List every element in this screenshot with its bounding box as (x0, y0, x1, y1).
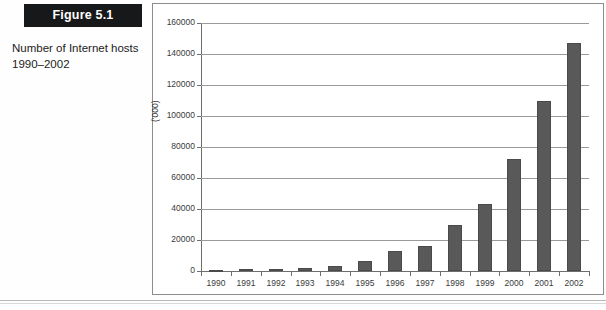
x-tick-mark (201, 272, 202, 276)
x-tick-label: 2000 (499, 278, 529, 288)
bar (328, 266, 342, 271)
bar (418, 246, 432, 271)
y-axis-title: ('000) (150, 101, 160, 122)
page-bottom-rule (0, 300, 606, 301)
y-tick-label: 60000 (171, 173, 195, 182)
x-tick-label: 1994 (320, 278, 350, 288)
x-axis-line (201, 271, 590, 272)
gridline (201, 116, 589, 117)
figure-caption-block: Figure 5.1 Number of Internet hosts 1990… (10, 4, 146, 72)
x-tick-mark (440, 272, 441, 276)
y-tick-label: 80000 (171, 142, 195, 151)
bar (478, 204, 492, 271)
x-tick-label: 1999 (470, 278, 500, 288)
gridline (201, 209, 589, 210)
x-tick-mark (410, 272, 411, 276)
x-tick-label: 1996 (380, 278, 410, 288)
y-tick-label: 0 (190, 266, 195, 275)
chart-frame: ('000) 020000400006000080000100000120000… (152, 3, 604, 295)
x-tick-label: 1992 (261, 278, 291, 288)
y-tick-label: 120000 (167, 80, 195, 89)
x-tick-mark (261, 272, 262, 276)
y-tick-label: 160000 (167, 18, 195, 27)
figure-page: Figure 5.1 Number of Internet hosts 1990… (0, 0, 606, 310)
gridline (201, 240, 589, 241)
footer-ghost-text (152, 304, 592, 310)
x-tick-mark (380, 272, 381, 276)
bar (269, 269, 283, 271)
bar (239, 269, 253, 271)
x-tick-label: 1995 (350, 278, 380, 288)
x-tick-label: 1997 (410, 278, 440, 288)
y-tick-label: 40000 (171, 204, 195, 213)
gridline (201, 147, 589, 148)
x-tick-mark (320, 272, 321, 276)
x-tick-mark (291, 272, 292, 276)
bar (388, 251, 402, 271)
bar (567, 43, 581, 271)
x-tick-label: 1993 (290, 278, 320, 288)
bar (298, 268, 312, 271)
x-tick-label: 2001 (529, 278, 559, 288)
gridline (201, 54, 589, 55)
x-tick-label: 1998 (440, 278, 470, 288)
bar (358, 261, 372, 271)
x-tick-mark (529, 272, 530, 276)
x-tick-mark (559, 272, 560, 276)
figure-caption-text: Number of Internet hosts 1990–2002 (12, 40, 142, 72)
x-tick-mark (350, 272, 351, 276)
bar (448, 225, 462, 271)
bar (507, 159, 521, 271)
plot-area (201, 23, 589, 271)
gridline (201, 23, 589, 24)
x-tick-label: 1991 (231, 278, 261, 288)
x-tick-mark (499, 272, 500, 276)
y-tick-label: 20000 (171, 235, 195, 244)
x-tick-mark (470, 272, 471, 276)
x-tick-label: 2002 (559, 278, 589, 288)
gridline (201, 178, 589, 179)
y-tick-label: 100000 (167, 111, 195, 120)
figure-number-banner: Figure 5.1 (24, 4, 142, 27)
x-tick-mark (589, 272, 590, 276)
x-tick-mark (231, 272, 232, 276)
gridline (201, 85, 589, 86)
bar (209, 270, 223, 272)
y-tick-label: 140000 (167, 49, 195, 58)
bar (537, 101, 551, 271)
x-tick-label: 1990 (201, 278, 231, 288)
